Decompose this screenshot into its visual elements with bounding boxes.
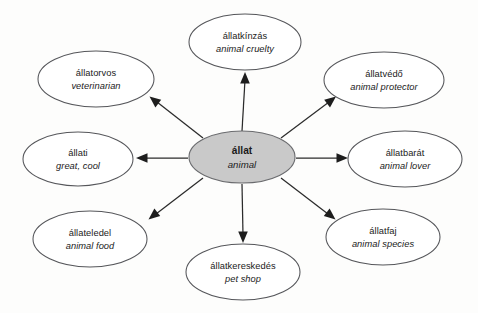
edge-center-to-allatkereskedes	[238, 184, 248, 243]
edge-line	[281, 102, 329, 138]
node-term-hu: állati	[68, 148, 87, 158]
node-allateledel[interactable]: állateledel animal food	[33, 211, 147, 267]
node-term-en: animal cruelty	[216, 44, 275, 54]
node-shape[interactable]	[186, 244, 300, 300]
edge-center-to-allatvedo	[281, 97, 336, 139]
node-term-en: animal protector	[350, 82, 418, 92]
node-term-en: animal lover	[380, 161, 432, 171]
edge-center-to-allateledel	[149, 178, 204, 220]
node-term-en: veterinarian	[71, 81, 120, 91]
edge-center-to-allatfaj	[281, 178, 336, 220]
node-shape[interactable]	[38, 51, 154, 107]
edge-line	[242, 80, 245, 131]
arrowhead-icon	[238, 232, 248, 244]
node-shape[interactable]	[23, 132, 133, 186]
node-term-hu: állatkínzás	[223, 31, 268, 41]
node-shape[interactable]	[324, 52, 444, 108]
arrowhead-icon	[324, 97, 336, 108]
edge-center-to-allatkinzas	[240, 72, 250, 131]
node-allatvedo[interactable]: állatvédő animal protector	[324, 52, 444, 108]
node-allatfaj[interactable]: állatfaj animal species	[326, 209, 440, 265]
node-term-en: great, cool	[56, 161, 101, 171]
node-shape[interactable]	[189, 14, 301, 70]
node-allatorvos[interactable]: állatorvos veterinarian	[38, 51, 154, 107]
node-allatbarat[interactable]: állatbarát animal lover	[348, 131, 462, 187]
edge-line	[242, 184, 243, 235]
arrowhead-icon	[150, 97, 162, 108]
node-term-hu: állatvédő	[365, 69, 403, 79]
node-term-hu: állatorvos	[76, 68, 117, 78]
node-term-en: animal species	[352, 239, 414, 249]
center-node-shape[interactable]	[189, 131, 295, 183]
edge-center-to-allatbarat	[296, 153, 348, 163]
edge-line	[156, 178, 203, 214]
node-shape[interactable]	[326, 209, 440, 265]
node-term-hu: állatbarát	[386, 148, 425, 158]
arrowhead-icon	[337, 153, 349, 163]
edge-line	[157, 102, 203, 138]
node-term-hu: állatkereskedés	[210, 261, 276, 271]
node-allatkinzas[interactable]: állatkínzás animal cruelty	[189, 14, 301, 70]
arrowhead-icon	[149, 208, 161, 219]
node-allatkereskedes[interactable]: állatkereskedés pet shop	[186, 244, 300, 300]
edge-line	[281, 178, 328, 214]
arrowhead-icon	[240, 72, 250, 84]
node-center-allat[interactable]: állat animal	[189, 131, 295, 183]
node-shape[interactable]	[348, 131, 462, 187]
center-term-en: animal	[228, 159, 257, 170]
node-allati[interactable]: állati great, cool	[23, 132, 133, 186]
arrowhead-icon	[324, 208, 336, 219]
mind-map-diagram: állatkínzás animal cruelty állatvédő ani…	[0, 0, 478, 313]
edge-center-to-allatorvos	[150, 97, 204, 139]
diagram-page: állatkínzás animal cruelty állatvédő ani…	[0, 0, 478, 313]
node-shape[interactable]	[33, 211, 147, 267]
edge-center-to-allati	[136, 153, 188, 163]
arrowhead-icon	[136, 153, 148, 163]
node-term-en: pet shop	[224, 274, 261, 284]
node-term-hu: állateledel	[69, 228, 111, 238]
node-term-hu: állatfaj	[369, 226, 396, 236]
center-term-hu: állat	[232, 145, 253, 156]
node-term-en: animal food	[66, 241, 115, 251]
